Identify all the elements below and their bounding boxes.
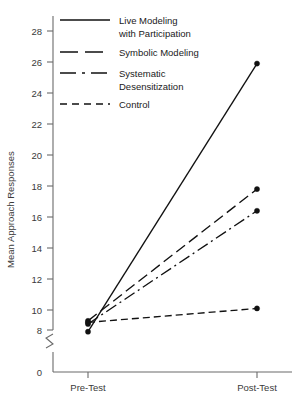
y-tick-label: 16 — [31, 212, 42, 223]
series-line-control — [88, 308, 257, 322]
data-point — [85, 329, 90, 334]
series-symbolic-modeling — [85, 187, 259, 324]
y-tick-label: 10 — [31, 305, 42, 316]
chart-figure: Mean Approach Responses 28 26 24 22 20 1… — [0, 0, 302, 399]
series-systematic-desensitization — [85, 208, 259, 326]
y-axis-ticks: 28 26 24 22 20 18 16 14 12 10 8 0 — [31, 26, 53, 378]
series-line-live-modeling — [88, 64, 257, 332]
series-live-modeling-with-participation — [85, 61, 259, 334]
y-tick-label: 22 — [31, 119, 42, 130]
legend-label-live-modeling-line1: Live Modeling — [119, 15, 178, 26]
y-tick-label: 20 — [31, 150, 42, 161]
y-axis-break-icon — [46, 334, 53, 348]
y-tick-label: 18 — [31, 181, 42, 192]
y-tick-label: 26 — [31, 57, 42, 68]
y-axis-title: Mean Approach Responses — [5, 151, 16, 268]
y-tick-label: 28 — [31, 26, 42, 37]
data-point — [254, 306, 259, 311]
chart-legend: Live Modeling with Participation Symboli… — [60, 15, 199, 110]
data-point — [254, 208, 259, 213]
legend-label-systematic-line1: Systematic — [119, 68, 166, 79]
data-point — [254, 187, 259, 192]
line-chart-canvas: Mean Approach Responses 28 26 24 22 20 1… — [0, 0, 302, 399]
y-tick-label: 14 — [31, 243, 42, 254]
legend-label-control: Control — [119, 99, 150, 110]
y-tick-label: 12 — [31, 274, 42, 285]
series-line-symbolic-modeling — [88, 189, 257, 321]
data-point — [254, 61, 259, 66]
x-tick-label-post: Post-Test — [237, 382, 277, 393]
series-line-systematic-desensitization — [88, 211, 257, 324]
y-tick-label: 24 — [31, 88, 42, 99]
x-tick-label-pre: Pre-Test — [70, 382, 106, 393]
x-axis-ticks: Pre-Test Post-Test — [70, 372, 277, 393]
legend-label-symbolic-modeling: Symbolic Modeling — [119, 47, 199, 58]
y-tick-label: 8 — [37, 325, 42, 336]
legend-label-live-modeling-line2: with Participation — [118, 28, 191, 39]
data-point — [85, 320, 90, 325]
y-tick-label-zero: 0 — [37, 367, 42, 378]
legend-label-systematic-line2: Desensitization — [119, 81, 183, 92]
